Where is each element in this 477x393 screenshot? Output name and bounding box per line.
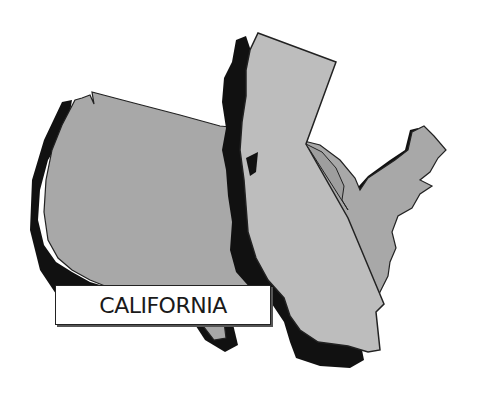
california-us-map-illustration	[0, 0, 477, 393]
state-label-box: CALIFORNIA	[55, 285, 271, 325]
state-label: CALIFORNIA	[99, 293, 226, 318]
